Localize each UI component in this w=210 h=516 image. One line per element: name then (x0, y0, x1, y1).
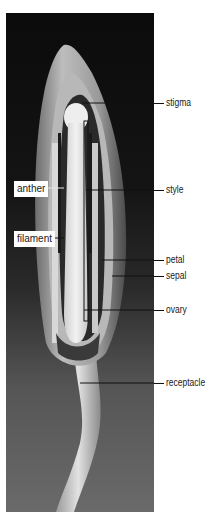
flower-bud-illustration (6, 13, 154, 512)
label-filament: filament (14, 231, 55, 247)
label-receptacle: receptacle (166, 377, 205, 389)
leader-petal (154, 260, 164, 261)
label-stigma: stigma (166, 97, 191, 109)
label-petal: petal (166, 254, 184, 266)
leader-sepal (154, 276, 164, 277)
leader-receptacle (154, 383, 164, 384)
label-ovary: ovary (166, 304, 187, 316)
label-anther: anther (14, 181, 48, 197)
leader-stigma (154, 103, 164, 104)
leader-ovary (154, 310, 164, 311)
label-style: style (166, 184, 183, 196)
label-sepal: sepal (166, 270, 186, 282)
leader-style (154, 190, 164, 191)
flower-bud-photo (6, 13, 154, 512)
